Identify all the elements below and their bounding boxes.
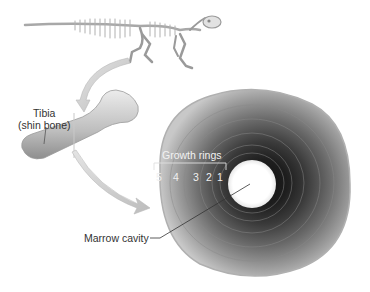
- ring-number: 3: [193, 171, 199, 183]
- marrow-cavity-label: Marrow cavity: [84, 232, 149, 244]
- ring-number: 4: [173, 171, 179, 183]
- ring-number: 2: [206, 171, 212, 183]
- arrow-tibia-to-section-icon: [72, 150, 150, 214]
- ring-number: 1: [217, 171, 223, 183]
- tibia-label-title: Tibia: [18, 107, 71, 119]
- bone-cross-section: [160, 90, 350, 277]
- marrow-cavity-shape: [228, 160, 276, 208]
- diagram-svg: [0, 0, 370, 292]
- growth-rings-label: Growth rings: [162, 149, 222, 161]
- ring-number: 5: [156, 171, 162, 183]
- tibia-label-subtitle: (shin bone): [18, 119, 71, 131]
- tibia-label: Tibia (shin bone): [18, 107, 71, 131]
- diagram-stage: Tibia (shin bone) Growth rings 5 4 3 2 1…: [0, 0, 370, 292]
